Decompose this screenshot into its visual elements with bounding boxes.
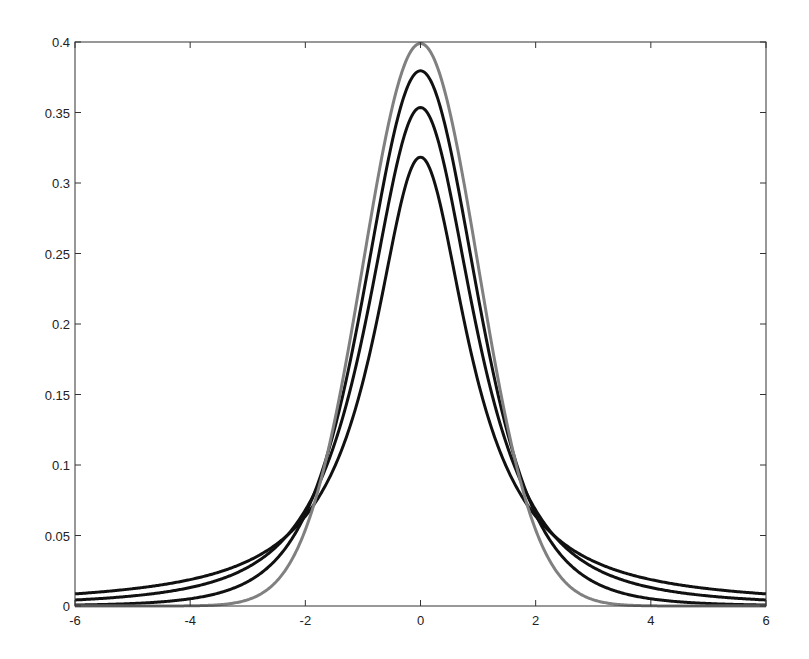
y-tick-label: 0.2 xyxy=(52,317,70,332)
y-tick-label: 0.35 xyxy=(45,106,70,121)
x-axis: -6-4-20246 xyxy=(69,42,769,628)
y-tick-label: 0.1 xyxy=(52,458,70,473)
x-tick-label: 4 xyxy=(647,613,654,628)
x-tick-label: 6 xyxy=(762,613,769,628)
y-tick-label: 0.4 xyxy=(52,35,70,50)
x-tick-label: 2 xyxy=(532,613,539,628)
x-tick-label: -2 xyxy=(300,613,312,628)
y-tick-label: 0.15 xyxy=(45,388,70,403)
y-tick-label: 0.05 xyxy=(45,529,70,544)
x-tick-label: -6 xyxy=(69,613,81,628)
x-tick-label: -4 xyxy=(184,613,196,628)
x-tick-label: 0 xyxy=(417,613,424,628)
plot-curves xyxy=(75,43,766,606)
y-tick-label: 0 xyxy=(63,599,70,614)
y-axis: 00.050.10.150.20.250.30.350.4 xyxy=(45,35,766,614)
t-distribution-chart: -6-4-20246 00.050.10.150.20.250.30.350.4 xyxy=(0,0,809,659)
plot-frame xyxy=(75,42,766,606)
curve-student-t-nu-1- xyxy=(75,157,766,594)
y-tick-label: 0.3 xyxy=(52,176,70,191)
curve-student-t-nu-2- xyxy=(75,107,766,599)
y-tick-label: 0.25 xyxy=(45,247,70,262)
curve-normal-n-0-1- xyxy=(75,43,766,606)
curve-student-t-nu-5- xyxy=(75,71,766,605)
